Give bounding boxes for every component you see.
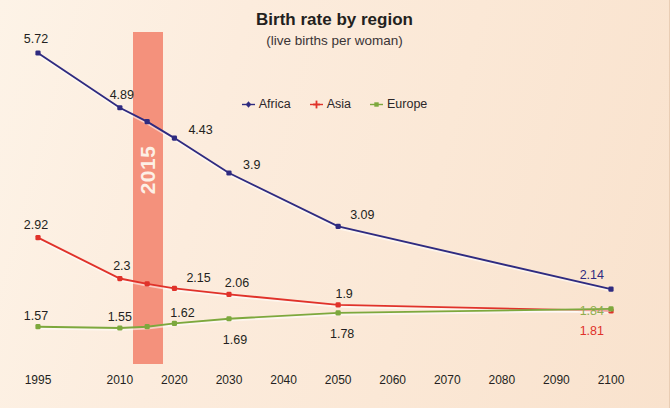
- data-point-europe-2020[interactable]: [172, 321, 177, 326]
- data-label-asia-2050: 1.9: [335, 288, 352, 301]
- data-point-asia-2020[interactable]: [172, 286, 177, 291]
- data-point-africa-2050[interactable]: [336, 224, 341, 229]
- data-point-africa-1995[interactable]: [35, 50, 40, 55]
- x-axis: 1995201020202030204020502060207020802090…: [0, 374, 670, 394]
- plot-area: [0, 0, 670, 408]
- data-point-africa-2020[interactable]: [172, 135, 177, 140]
- data-label-africa-2010: 4.89: [110, 89, 134, 102]
- data-point-europe-2010[interactable]: [117, 325, 122, 330]
- x-tick-1995: 1995: [25, 374, 52, 386]
- birth-rate-chart: 2015 Birth rate by region (live births p…: [0, 0, 670, 408]
- data-label-africa-1995: 5.72: [24, 33, 48, 46]
- data-point-europe-2015[interactable]: [145, 324, 150, 329]
- data-label-asia-2030: 2.06: [225, 277, 249, 290]
- data-label-africa-2100: 2.14: [580, 269, 604, 282]
- x-tick-2100: 2100: [598, 374, 625, 386]
- data-label-asia-2010: 2.3: [113, 260, 130, 273]
- data-point-europe-2030[interactable]: [226, 316, 231, 321]
- data-point-africa-2010[interactable]: [117, 105, 122, 110]
- data-label-europe-2100: 1.84: [580, 305, 604, 318]
- x-tick-2010: 2010: [106, 374, 133, 386]
- data-label-europe-2050: 1.78: [330, 328, 354, 341]
- data-point-asia-1995[interactable]: [35, 235, 40, 240]
- data-label-africa-2020: 4.43: [188, 124, 212, 137]
- x-tick-2090: 2090: [543, 374, 570, 386]
- data-point-asia-2050[interactable]: [336, 302, 341, 307]
- data-label-asia-2100: 1.81: [580, 325, 604, 338]
- data-point-africa-2100[interactable]: [608, 286, 613, 291]
- data-label-africa-2030: 3.9: [243, 159, 260, 172]
- data-point-asia-2030[interactable]: [226, 292, 231, 297]
- x-tick-2040: 2040: [270, 374, 297, 386]
- series-line-halo-asia: [38, 239, 611, 312]
- data-label-europe-1995: 1.57: [24, 310, 48, 323]
- data-label-asia-2020: 2.15: [186, 272, 210, 285]
- series-line-asia[interactable]: [38, 238, 611, 311]
- x-tick-2080: 2080: [488, 374, 515, 386]
- data-point-asia-2015[interactable]: [145, 281, 150, 286]
- x-tick-2060: 2060: [379, 374, 406, 386]
- data-label-europe-2030: 1.69: [223, 334, 247, 347]
- data-point-europe-2100[interactable]: [608, 306, 613, 311]
- data-label-europe-2010: 1.55: [108, 311, 132, 324]
- x-tick-2030: 2030: [216, 374, 243, 386]
- data-label-asia-1995: 2.92: [24, 219, 48, 232]
- data-point-europe-1995[interactable]: [35, 324, 40, 329]
- data-point-europe-2050[interactable]: [336, 310, 341, 315]
- x-tick-2050: 2050: [325, 374, 352, 386]
- data-label-europe-2020: 1.62: [170, 307, 194, 320]
- x-tick-2070: 2070: [434, 374, 461, 386]
- data-point-africa-2015[interactable]: [145, 119, 150, 124]
- x-tick-2020: 2020: [161, 374, 188, 386]
- data-point-africa-2030[interactable]: [226, 170, 231, 175]
- data-label-africa-2050: 3.09: [350, 209, 374, 222]
- data-point-asia-2010[interactable]: [117, 276, 122, 281]
